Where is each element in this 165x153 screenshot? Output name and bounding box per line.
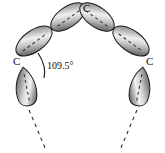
orbital-diagram-canvas <box>0 0 165 153</box>
upper-left-orbital-pair <box>11 0 90 62</box>
angle-arc <box>38 53 45 78</box>
atom-label-top-c: C <box>83 3 90 14</box>
bond-angle-label: 109.5° <box>47 61 74 71</box>
orbital-diagram: C C C 109.5° <box>0 0 165 153</box>
atom-label-left-c: C <box>13 56 20 67</box>
right-bond-dashed <box>120 110 137 150</box>
left-bond-dashed <box>29 110 46 150</box>
lower-right-lobe <box>127 66 152 107</box>
lower-left-lobe <box>13 66 38 107</box>
atom-label-right-c: C <box>146 56 153 67</box>
